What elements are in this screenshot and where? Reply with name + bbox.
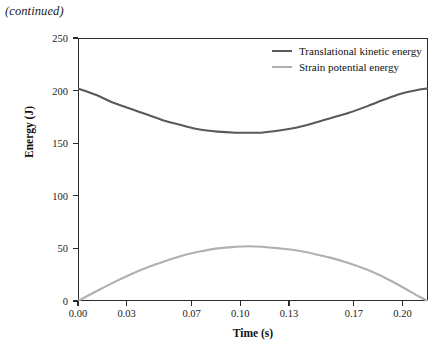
legend-line-icon	[272, 66, 292, 68]
y-tick-mark	[73, 248, 78, 249]
x-tick-label: 0.20	[393, 308, 411, 319]
legend-item: Translational kinetic energy	[272, 44, 422, 58]
legend-item-label: Translational kinetic energy	[299, 45, 422, 57]
x-tick-mark	[126, 301, 127, 306]
x-tick-mark	[402, 301, 403, 306]
series-line-2	[78, 246, 428, 301]
x-tick-mark	[191, 301, 192, 306]
x-tick-mark	[288, 301, 289, 306]
y-tick-mark	[73, 90, 78, 91]
chart-legend: Translational kinetic energyStrain poten…	[272, 44, 422, 76]
y-tick-label: 250	[42, 33, 68, 44]
x-tick-label: 0.07	[182, 308, 200, 319]
x-tick-label: 0.00	[69, 308, 87, 319]
y-axis-title: Energy (J)	[23, 72, 35, 192]
legend-item: Strain potential energy	[272, 60, 422, 74]
energy-vs-time-chart: 050100150200250 0.000.030.070.100.130.17…	[0, 0, 444, 352]
legend-line-icon	[272, 50, 292, 52]
chart-curves	[78, 38, 428, 301]
x-tick-mark	[240, 301, 241, 306]
y-tick-mark	[73, 195, 78, 196]
y-tick-label: 200	[42, 85, 68, 96]
y-tick-label: 50	[42, 243, 68, 254]
x-tick-mark	[77, 301, 78, 306]
x-axis-title: Time (s)	[78, 327, 428, 339]
x-tick-label: 0.13	[280, 308, 298, 319]
figure-page: (continued) 050100150200250 0.000.030.07…	[0, 0, 444, 352]
x-tick-label: 0.17	[345, 308, 363, 319]
x-tick-mark	[353, 301, 354, 306]
y-tick-label: 100	[42, 190, 68, 201]
y-tick-mark	[73, 143, 78, 144]
y-tick-label: 0	[42, 296, 68, 307]
y-tick-mark	[73, 37, 78, 38]
legend-item-label: Strain potential energy	[299, 61, 399, 73]
x-tick-label: 0.10	[231, 308, 249, 319]
y-tick-label: 150	[42, 138, 68, 149]
series-line-1	[78, 89, 428, 133]
x-tick-label: 0.03	[117, 308, 135, 319]
